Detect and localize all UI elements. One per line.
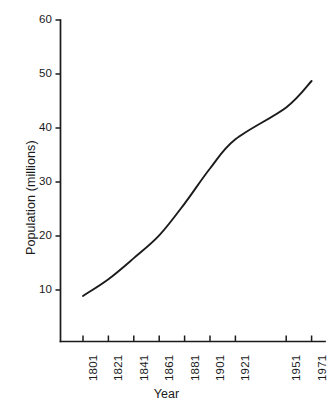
y-tick-label: 60 bbox=[22, 14, 52, 26]
y-tick-label: 10 bbox=[22, 284, 52, 296]
x-tick-label: 1861 bbox=[164, 355, 176, 381]
x-tick-label: 1921 bbox=[240, 355, 252, 381]
x-tick-label: 1801 bbox=[88, 355, 100, 381]
x-tick-label: 1821 bbox=[113, 355, 125, 381]
y-axis-title: Population (millions) bbox=[24, 140, 38, 255]
x-axis-title: Year bbox=[0, 387, 333, 401]
x-tick-label: 1841 bbox=[139, 355, 151, 381]
x-tick-label: 1971 bbox=[317, 355, 329, 381]
y-tick-label: 50 bbox=[22, 68, 52, 80]
chart-plot-area bbox=[0, 0, 333, 406]
x-tick-label: 1901 bbox=[215, 355, 227, 381]
tick-group bbox=[56, 20, 312, 342]
population-series-line bbox=[83, 81, 312, 296]
y-tick-label: 40 bbox=[22, 122, 52, 134]
x-tick-label: 1881 bbox=[190, 355, 202, 381]
population-line-chart: 102030405060 180118211841186118811901192… bbox=[0, 0, 333, 406]
x-tick-label: 1951 bbox=[291, 355, 303, 381]
axis-group bbox=[61, 20, 326, 342]
